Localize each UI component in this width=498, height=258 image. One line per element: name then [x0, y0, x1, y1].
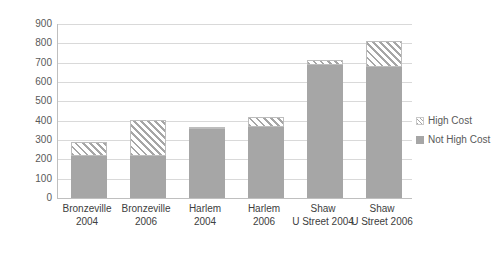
bar-segment-not-high-cost[interactable]: [130, 156, 166, 198]
bar-segment-high-cost[interactable]: [248, 117, 284, 128]
x-label-line2: 2006: [230, 215, 298, 228]
x-label-shaw-u-street-2004: Shaw U Street 2004: [289, 202, 357, 228]
bar-segment-not-high-cost[interactable]: [366, 67, 402, 199]
y-axis-line: [57, 24, 58, 199]
y-tick-label: 0: [8, 193, 52, 203]
bar-segment-high-cost[interactable]: [189, 127, 225, 130]
hatched-square-swatch-icon: [416, 117, 424, 125]
plot-area: [57, 24, 412, 198]
y-tick-label: 900: [8, 19, 52, 29]
x-label-line1: Shaw: [310, 203, 335, 214]
bar-segment-not-high-cost[interactable]: [189, 129, 225, 198]
y-tick-label: 300: [8, 135, 52, 145]
chart-legend: High Cost Not High Cost: [416, 116, 498, 154]
bar-segment-high-cost[interactable]: [366, 41, 402, 66]
bar-segment-high-cost[interactable]: [71, 142, 107, 157]
x-label-line2: 2004: [53, 215, 121, 228]
y-tick-label: 600: [8, 77, 52, 87]
y-tick-label: 700: [8, 58, 52, 68]
y-tick-label: 800: [8, 38, 52, 48]
x-label-harlem-2006: Harlem 2006: [230, 202, 298, 228]
x-label-line2: U Street 2004: [289, 215, 357, 228]
y-tick-label: 400: [8, 116, 52, 126]
bar-segment-high-cost[interactable]: [130, 120, 166, 157]
x-label-harlem-2004: Harlem 2004: [171, 202, 239, 228]
x-label-bronzeville-2004: Bronzeville 2004: [53, 202, 121, 228]
stacked-bar-chart: 900 800 700 600 500 400 300 200 100 0 Br…: [0, 0, 498, 258]
bar-segment-not-high-cost[interactable]: [248, 127, 284, 198]
x-label-line2: U Street 2006: [348, 215, 416, 228]
x-label-line1: Bronzeville: [63, 203, 112, 214]
legend-item-not-high-cost[interactable]: Not High Cost: [416, 135, 498, 145]
solid-square-swatch-icon: [416, 136, 424, 144]
legend-item-high-cost[interactable]: High Cost: [416, 116, 498, 126]
bars-layer: [57, 24, 412, 198]
x-label-line2: 2004: [171, 215, 239, 228]
legend-label: Not High Cost: [428, 135, 490, 145]
x-label-bronzeville-2006: Bronzeville 2006: [112, 202, 180, 228]
y-tick-label: 500: [8, 96, 52, 106]
gridline-0: [57, 198, 412, 199]
bar-segment-high-cost[interactable]: [307, 60, 343, 65]
x-label-line1: Harlem: [189, 203, 221, 214]
x-label-line2: 2006: [112, 215, 180, 228]
x-axis-category-labels: Bronzeville 2004 Bronzeville 2006 Harlem…: [57, 202, 412, 246]
x-label-line1: Shaw: [369, 203, 394, 214]
x-label-line1: Harlem: [248, 203, 280, 214]
y-tick-label: 200: [8, 154, 52, 164]
y-tick-label: 100: [8, 174, 52, 184]
legend-label: High Cost: [428, 116, 472, 126]
x-label-line1: Bronzeville: [122, 203, 171, 214]
bar-segment-not-high-cost[interactable]: [71, 156, 107, 198]
bar-segment-not-high-cost[interactable]: [307, 65, 343, 198]
x-label-shaw-u-street-2006: Shaw U Street 2006: [348, 202, 416, 228]
